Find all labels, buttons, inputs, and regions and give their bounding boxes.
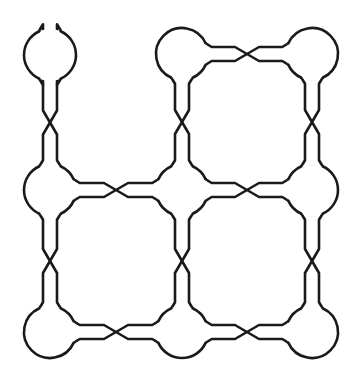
edge-n11-n21: [171, 214, 192, 309]
edge-n10-n20: [39, 214, 60, 309]
nodes-layer: [24, 28, 338, 358]
edge-n12-n22: [301, 214, 322, 309]
node-n12: [286, 164, 338, 216]
node-n01: [156, 28, 208, 80]
edge-n01-n02: [206, 43, 289, 64]
node-n10: [24, 164, 76, 216]
node-n21: [156, 306, 208, 358]
edge-n02-n12: [301, 78, 322, 167]
lattice-diagram: [0, 0, 353, 366]
node-n02: [286, 28, 338, 80]
edge-n20-n21: [74, 321, 159, 342]
node-n20: [24, 306, 76, 358]
edge-n00-n10: [39, 79, 60, 167]
edge-n10-n11: [74, 179, 159, 200]
node-n11: [156, 164, 208, 216]
edge-n11-n12: [206, 179, 289, 200]
node-n00: [24, 29, 76, 81]
edge-n01-n11: [171, 78, 192, 167]
node-n22: [286, 306, 338, 358]
edge-n21-n22: [206, 321, 289, 342]
